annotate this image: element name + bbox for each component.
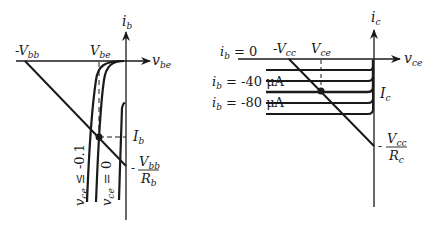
transistor-characteristics-diagram: ib vbe -Vbb Vbe Ib - Vbb Rb vce ≤ -0.1 v… <box>0 0 433 232</box>
ic-axis-label: ic <box>371 9 381 27</box>
svg-text:-: - <box>131 161 135 175</box>
svg-text:Vcc: Vcc <box>387 131 406 148</box>
curve-third <box>119 103 125 200</box>
curve-vce-eq-0-label: vce = 0 <box>99 161 116 206</box>
ib-axis-label: ib <box>122 13 132 31</box>
ic-operating-label: Ic <box>379 85 391 103</box>
svg-text:Rc: Rc <box>388 148 404 165</box>
vbe-axis-label: vbe <box>152 52 171 70</box>
vcc-over-rc-label: - Vcc Rc <box>378 131 407 165</box>
svg-text:Rb: Rb <box>140 171 157 188</box>
vbe-label: Vbe <box>90 43 110 60</box>
ib-operating-label: Ib <box>132 128 145 146</box>
input-operating-point <box>96 134 103 141</box>
output-operating-point <box>318 88 325 95</box>
input-characteristic-plot: ib vbe -Vbb Vbe Ib - Vbb Rb vce ≤ -0.1 v… <box>15 13 171 220</box>
vce-label: Vce <box>311 41 331 58</box>
vce-axis-label: vce <box>404 50 422 68</box>
neg-vbb-label: -Vbb <box>15 43 40 60</box>
curve-vce-le-neg01-label: vce ≤ -0.1 <box>72 144 89 206</box>
ib-neg80-label: ib = -80 μA <box>212 95 285 112</box>
svg-text:-: - <box>378 139 382 153</box>
ib-neg40-label: ib = -40 μA <box>212 74 285 91</box>
vbb-over-rb-label: - Vbb Rb <box>131 154 160 188</box>
output-characteristic-plot: ic vce -Vcc Vce Ic - Vcc Rc ib = 0 ib = … <box>212 9 422 207</box>
svg-text:Vbb: Vbb <box>139 154 160 171</box>
ib-0-label: ib = 0 <box>220 44 257 61</box>
neg-vcc-label: -Vcc <box>273 41 296 58</box>
curve-ib-1 <box>266 60 373 70</box>
